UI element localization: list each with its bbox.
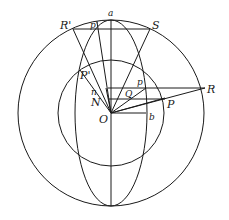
label-p: P bbox=[166, 98, 175, 111]
label-p-prime-top: p' bbox=[90, 20, 98, 30]
label-n: N bbox=[90, 96, 101, 109]
line-o-big-p bbox=[111, 98, 165, 113]
line-s-o bbox=[111, 29, 150, 113]
label-p-small: p bbox=[137, 77, 143, 87]
geometry-diagram: a R' p' S P' p R n Q N P O b bbox=[0, 0, 229, 220]
label-s: S bbox=[152, 19, 160, 32]
label-q: Q bbox=[125, 89, 133, 99]
label-p-prime: P' bbox=[79, 69, 90, 82]
label-r-prime: R' bbox=[59, 19, 71, 32]
label-a: a bbox=[108, 8, 113, 18]
label-o: O bbox=[99, 113, 108, 126]
label-b: b bbox=[149, 112, 155, 122]
label-r: R bbox=[206, 83, 215, 96]
